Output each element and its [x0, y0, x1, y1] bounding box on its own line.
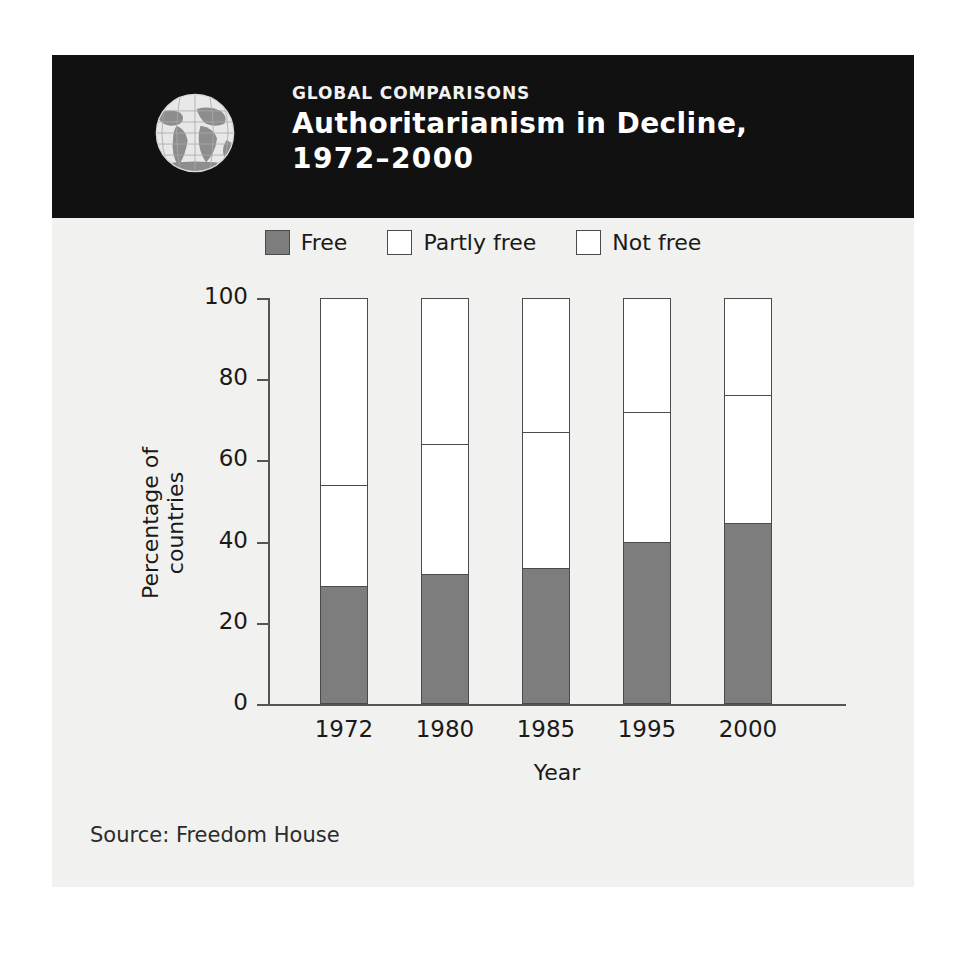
y-axis-tick: 80 [257, 379, 268, 381]
stacked-bar [724, 298, 772, 704]
bar-segment-partly-free [724, 395, 772, 523]
y-axis-tick-label: 100 [204, 283, 248, 309]
bar-segment-free [724, 523, 772, 704]
bar-segment-not-free [421, 298, 469, 444]
bar-segment-free [623, 542, 671, 704]
figure-panel: GLOBAL COMPARISONS Authoritarianism in D… [52, 55, 914, 887]
bar-segment-partly-free [623, 412, 671, 542]
legend-label-not-free: Not free [612, 230, 701, 255]
header-eyebrow: GLOBAL COMPARISONS [292, 82, 747, 104]
bar-segment-not-free [724, 298, 772, 395]
y-axis-tick-label: 60 [219, 445, 248, 471]
y-axis-tick-label: 40 [219, 527, 248, 553]
legend-item-free: Free [265, 230, 348, 255]
header-title-line1: Authoritarianism in Decline, [292, 107, 747, 141]
stacked-bar [320, 298, 368, 704]
y-axis-tick: 100 [257, 298, 268, 300]
x-axis-tick-label: 1980 [390, 716, 500, 742]
plot-area: Percentage of countries 020406080100 197… [268, 298, 846, 704]
legend-swatch-free [265, 230, 290, 255]
header-title-line2: 1972–2000 [292, 141, 747, 177]
y-axis-tick: 40 [257, 542, 268, 544]
bar-segment-free [320, 586, 368, 704]
x-axis-tick-label: 1985 [491, 716, 601, 742]
y-axis-tick: 0 [257, 704, 268, 706]
legend-swatch-not-free [576, 230, 601, 255]
x-axis-tick-label: 2000 [693, 716, 803, 742]
bar-segment-partly-free [522, 432, 570, 568]
legend-label-free: Free [301, 230, 348, 255]
bar-segment-free [421, 574, 469, 704]
legend-swatch-partly-free [387, 230, 412, 255]
bar-segment-free [522, 568, 570, 704]
legend-label-partly-free: Partly free [423, 230, 536, 255]
y-axis-line [268, 298, 270, 705]
figure-header: GLOBAL COMPARISONS Authoritarianism in D… [52, 55, 914, 218]
bar-segment-not-free [522, 298, 570, 432]
stacked-bar [421, 298, 469, 704]
x-axis-line [268, 704, 846, 706]
y-axis-tick: 20 [257, 623, 268, 625]
legend-item-partly-free: Partly free [387, 230, 536, 255]
x-axis-title: Year [268, 760, 846, 785]
y-axis-tick: 60 [257, 460, 268, 462]
bar-segment-not-free [623, 298, 671, 412]
y-axis-tick-label: 80 [219, 364, 248, 390]
x-axis-tick-label: 1995 [592, 716, 702, 742]
y-axis-tick-label: 20 [219, 608, 248, 634]
x-axis-tick-label: 1972 [289, 716, 399, 742]
header-text-block: GLOBAL COMPARISONS Authoritarianism in D… [292, 82, 747, 177]
source-note: Source: Freedom House [90, 823, 340, 847]
globe-icon [149, 87, 241, 179]
bar-segment-partly-free [320, 485, 368, 587]
stacked-bar [623, 298, 671, 704]
legend-item-not-free: Not free [576, 230, 701, 255]
bar-segment-not-free [320, 298, 368, 485]
bar-segment-partly-free [421, 444, 469, 574]
y-axis-tick-label: 0 [233, 689, 248, 715]
y-axis-title: Percentage of countries [138, 398, 188, 648]
chart-legend: Free Partly free Not free [52, 230, 914, 255]
stacked-bar [522, 298, 570, 704]
